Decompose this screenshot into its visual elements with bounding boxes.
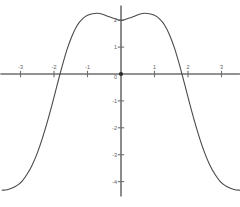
x-tick-label: -3 <box>18 64 23 70</box>
x-tick-label: 3 <box>220 64 223 70</box>
y-tick-label: -4 <box>112 179 117 185</box>
y-tick-label: 1 <box>114 44 117 50</box>
origin-label: 0 <box>114 74 117 80</box>
y-tick-label: -3 <box>112 152 117 158</box>
y-tick-group: 21-1-2-3-4 <box>112 17 124 184</box>
x-tick-label: 2 <box>187 64 190 70</box>
origin-marker <box>119 72 123 76</box>
x-tick-label: -1 <box>85 64 90 70</box>
x-tick-label: 1 <box>153 64 156 70</box>
plot-canvas: -3-2-1123 21-1-2-3-4 0 <box>0 0 240 207</box>
y-tick-label: -1 <box>112 98 117 104</box>
function-plot: -3-2-1123 21-1-2-3-4 0 <box>0 0 240 207</box>
x-tick-label: -2 <box>52 64 57 70</box>
y-tick-label: -2 <box>112 125 117 131</box>
